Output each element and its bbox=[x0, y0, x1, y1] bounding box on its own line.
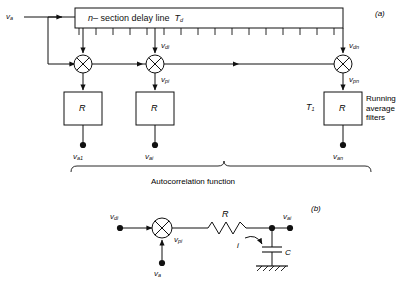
panel-a-id: (a) bbox=[375, 9, 385, 18]
current-arrow-i bbox=[245, 236, 262, 244]
resistor-b bbox=[208, 222, 246, 234]
running-avg-line-3: filters bbox=[366, 113, 396, 123]
product-label-n: vpn bbox=[349, 75, 359, 84]
tap-label-i: vdi bbox=[161, 41, 169, 50]
delay-line-label: n– section delay line Td bbox=[88, 13, 183, 23]
signal-bus bbox=[92, 61, 338, 66]
t1-label: T1 bbox=[306, 102, 315, 112]
feedback-branch bbox=[48, 17, 75, 64]
multiplier-b bbox=[152, 218, 172, 238]
panel-b-input-label: vdi bbox=[110, 212, 118, 221]
input-label-a: va bbox=[6, 12, 13, 21]
panel-b-output-label: vai bbox=[283, 212, 291, 221]
output-label-i: vai bbox=[145, 152, 153, 161]
output-stem-i bbox=[152, 125, 158, 148]
autocorrelation-caption: Autocorrelation function bbox=[151, 177, 235, 186]
panel-b-input bbox=[117, 225, 152, 231]
filter-box-label-n: R bbox=[339, 103, 346, 113]
filter-box-label-i: R bbox=[151, 103, 158, 113]
current-label-b: i bbox=[237, 241, 239, 250]
multiplier-1 bbox=[74, 55, 92, 73]
running-average-filters-label: Running average filters bbox=[366, 94, 396, 123]
panel-b-product-label: vpi bbox=[174, 235, 182, 244]
panel-b-second-input-label: va bbox=[154, 269, 161, 278]
output-label-n: van bbox=[333, 152, 343, 161]
filter-box-label-1: R bbox=[79, 103, 86, 113]
resistor-label-b: R bbox=[222, 209, 229, 219]
capacitor-label-b: C bbox=[285, 248, 291, 257]
running-avg-line-2: average bbox=[366, 104, 396, 114]
ground-symbol bbox=[256, 266, 288, 271]
panel-b-id: (b) bbox=[311, 204, 321, 213]
tap-label-n: vdn bbox=[349, 41, 359, 50]
product-label-i: vpi bbox=[161, 75, 169, 84]
diagram-svg bbox=[0, 0, 401, 291]
output-stem-n bbox=[340, 125, 346, 148]
running-avg-line-1: Running bbox=[366, 94, 396, 104]
panel-b-second-input bbox=[159, 240, 165, 266]
figure-canvas: va n– section delay line Td (a) vdi vdn … bbox=[0, 0, 401, 291]
output-label-1: va1 bbox=[73, 152, 83, 161]
output-stem-1 bbox=[80, 125, 86, 148]
node-dot-b bbox=[269, 225, 275, 231]
multiplier-n bbox=[334, 55, 352, 73]
capacitor-b bbox=[262, 231, 282, 266]
delay-line-taps bbox=[79, 28, 334, 35]
multiplier-i bbox=[146, 55, 164, 73]
autocorrelation-brace bbox=[71, 161, 371, 172]
output-dot-b bbox=[287, 225, 293, 231]
